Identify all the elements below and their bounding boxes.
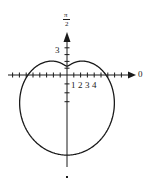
- x-axis-arrow-icon: [128, 72, 136, 79]
- x-tick-label-2: 2: [78, 81, 83, 90]
- pi-label: π: [64, 12, 68, 19]
- x-tick-label-4: 4: [92, 81, 97, 90]
- x-tick-label-1: 1: [71, 81, 76, 90]
- polar-plot: [0, 0, 148, 181]
- y-axis-arrow-icon: [64, 32, 71, 42]
- x-tick-label-3: 3: [85, 81, 90, 90]
- bottom-mark: [66, 176, 68, 178]
- y-tick-label-3: 3: [55, 46, 60, 55]
- polar-axis-label: 0: [138, 70, 143, 79]
- two-label: 2: [65, 21, 69, 28]
